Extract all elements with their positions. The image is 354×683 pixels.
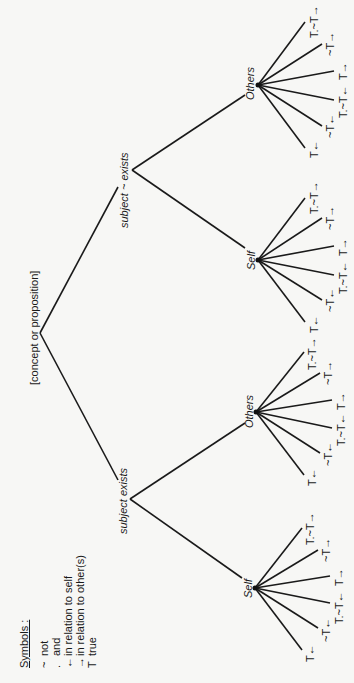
legend-title: Symbols : [18,555,30,668]
leaf: ~T← [322,442,334,466]
leaf: ~T→ [324,32,336,56]
leaf: T→ [337,238,349,256]
legend-item-others: →in relation to other(s) [74,555,86,668]
leaf: ~T← [324,288,336,312]
node-label-others-sne: Others [244,67,256,100]
branch-label-subject-not-exists: subject ~ exists [118,152,130,228]
leaf: T.~T← [337,85,349,118]
leaf: ~T→ [320,538,332,562]
edge-sne-self [132,170,245,248]
edge-sne-others [132,95,245,170]
branch-label-subject-exists: subject exists [117,468,129,534]
fan-others-sne [256,22,335,148]
leaf: T.~T→ [308,5,320,38]
root-label: [concept or proposition] [28,271,40,385]
leaf: ~T→ [324,206,336,230]
leaf: T.~T← [337,261,349,294]
leaf: T← [308,140,320,158]
legend-item-true: Ttrue [86,555,98,668]
symbols-legend: Symbols : ~not .and ←in relation to self… [18,555,98,668]
leaf: ~T→ [322,361,334,385]
leaf: T← [306,468,318,486]
fan-others-se [254,352,333,475]
edge-se-self [130,499,242,578]
leaf: T.~T← [335,413,347,446]
arrow-left-icon: ← [62,656,74,668]
tree-diagram: [concept or proposition] subject ~ exist… [0,0,354,683]
leaf: T→ [337,62,349,80]
edge-se-others [130,423,245,499]
leaf: T→ [335,392,347,410]
leaf: T← [308,315,320,333]
leaf: T→ [333,568,345,586]
leaf: T.~T→ [306,337,318,370]
leaf: T.~T→ [304,512,316,545]
fan-self-sne [256,198,335,322]
leaf: T← [304,644,316,662]
leaf: T.~T← [333,591,345,624]
legend-item-not: ~not [38,555,50,668]
arrow-right-icon: → [74,656,86,668]
node-label-self-se: Self [242,579,254,598]
node-label-self-sne: Self [245,251,257,270]
leaf: ~T← [324,114,336,138]
fan-self-se [253,528,331,650]
leaf: T.~T→ [308,181,320,214]
edge-root-subject-not-exists [40,187,118,333]
node-label-others-se: Others [243,395,255,428]
edge-root-subject-exists [40,333,118,480]
leaf: ~T← [320,618,332,642]
legend-item-and: .and [50,555,62,668]
legend-item-self: ←in relation to self [62,555,74,668]
